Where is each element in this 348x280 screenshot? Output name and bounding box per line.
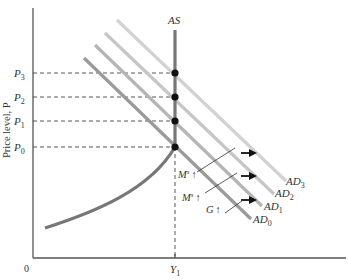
p0-label: P0 bbox=[13, 141, 25, 156]
up-arrow-icon: ↑ bbox=[191, 169, 196, 180]
ad1-curve bbox=[95, 45, 262, 206]
equilibrium-dot-p3 bbox=[171, 69, 178, 76]
as-ad-diagram: AS P3 P2 P1 P0 Price level, P 0 Y1 AD3 A… bbox=[0, 0, 348, 280]
ad3-curve bbox=[117, 20, 286, 181]
equilibrium-dot-p0 bbox=[171, 143, 178, 150]
p3-label: P3 bbox=[13, 67, 25, 82]
leader-line-ms-1 bbox=[197, 148, 235, 172]
equilibrium-dot-p1 bbox=[171, 117, 178, 124]
ad2-curve bbox=[105, 33, 274, 194]
p2-label: P2 bbox=[13, 91, 25, 106]
annotation-money-supply-2: Ms↑ bbox=[181, 191, 201, 203]
up-arrow-icon: ↑ bbox=[195, 192, 200, 203]
y-axis-title: Price level, P bbox=[1, 102, 12, 158]
annotation-money-supply-1: Ms↑ bbox=[177, 168, 197, 180]
equilibrium-dot-p2 bbox=[171, 93, 178, 100]
p1-label: P1 bbox=[13, 115, 25, 130]
y1-label: Y1 bbox=[170, 263, 180, 278]
as-label: AS bbox=[167, 14, 181, 26]
ad0-label: AD0 bbox=[252, 213, 272, 228]
annotation-government-spending: G↑ bbox=[206, 204, 221, 215]
ad0-curve bbox=[84, 58, 251, 219]
origin-label: 0 bbox=[24, 263, 29, 274]
shift-arrow-icon bbox=[241, 172, 257, 180]
up-arrow-icon: ↑ bbox=[216, 204, 221, 215]
